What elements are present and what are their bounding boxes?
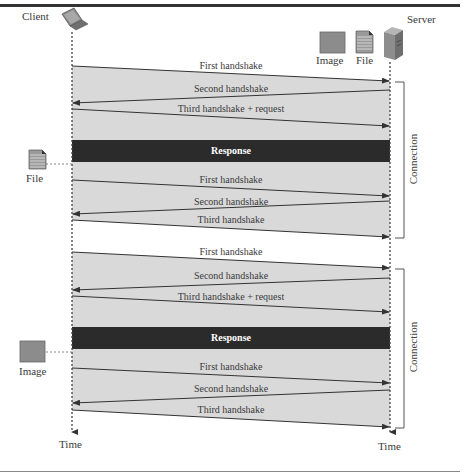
image-icon xyxy=(320,32,345,53)
server-time-label: Time xyxy=(378,440,401,452)
server-label: Server xyxy=(407,13,436,25)
conn1-msg-first-handshake-2: First handshake xyxy=(72,174,390,185)
client-time-label: Time xyxy=(59,438,82,450)
conn2-msg-third-handshake: Third handshake xyxy=(72,404,390,415)
received-image-icon xyxy=(20,341,45,362)
conn2-msg-third-handshake-request: Third handshake + request xyxy=(72,291,390,302)
received-image-label: Image xyxy=(19,365,46,377)
conn2-response-label: Response xyxy=(72,332,390,343)
conn2-msg-second-handshake: Second handshake xyxy=(72,270,390,281)
connection-2-label: Connection xyxy=(407,307,419,387)
conn1-msg-first-handshake: First handshake xyxy=(72,60,390,71)
server-tower-icon xyxy=(384,27,403,60)
conn1-msg-third-handshake: Third handshake xyxy=(72,214,390,225)
received-file-icon xyxy=(29,150,46,169)
laptop-icon xyxy=(62,8,88,30)
conn1-msg-second-handshake-2: Second handshake xyxy=(72,196,390,207)
client-label: Client xyxy=(22,10,49,22)
conn1-msg-second-handshake: Second handshake xyxy=(72,83,390,94)
file-document-icon xyxy=(356,31,373,53)
connection-1-label: Connection xyxy=(407,119,419,199)
connection-1-bracket xyxy=(395,82,404,238)
conn2-msg-first-handshake: First handshake xyxy=(72,246,390,257)
conn1-response-label: Response xyxy=(72,145,390,156)
conn2-msg-second-handshake-2: Second handshake xyxy=(72,383,390,394)
conn1-msg-third-handshake-request: Third handshake + request xyxy=(72,103,390,114)
received-file-label: File xyxy=(26,172,43,184)
connection-2-bracket xyxy=(395,269,404,428)
conn2-msg-first-handshake-2: First handshake xyxy=(72,361,390,372)
